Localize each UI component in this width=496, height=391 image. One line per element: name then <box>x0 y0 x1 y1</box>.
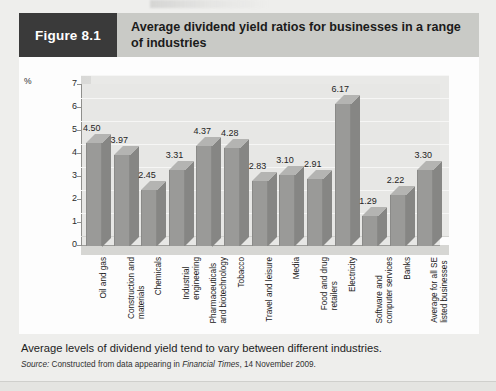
bar[interactable] <box>86 143 102 247</box>
figure-title: Average dividend yield ratios for busine… <box>117 13 479 57</box>
bar-value-label: 3.97 <box>111 135 129 145</box>
plot-floor <box>81 245 449 255</box>
bar-value-label: 4.50 <box>83 123 101 133</box>
bar-side-face <box>433 161 442 246</box>
bar-front-face <box>362 216 378 246</box>
x-axis-category-label: Banks <box>403 257 413 280</box>
category-label-line: listed businesses <box>440 257 450 323</box>
category-label-line: Industrial <box>182 257 192 300</box>
category-label-line: Average for all SE <box>430 257 440 323</box>
bar-side-face <box>295 166 304 246</box>
bar-value-label: 4.28 <box>221 128 239 138</box>
category-label-line: Construction and <box>127 257 137 319</box>
bar[interactable] <box>169 170 185 246</box>
bar-front-face <box>417 170 433 246</box>
y-axis-tick-label: 7 <box>59 78 77 88</box>
x-axis-category-label: Food and drugretailers <box>320 257 339 310</box>
y-axis-tick-label: 4 <box>59 147 77 157</box>
bar[interactable] <box>114 155 130 246</box>
x-axis-category-label: Pharmaceuticalsand biotechnology <box>209 257 228 323</box>
bar-side-face <box>157 181 166 246</box>
bar-front-face <box>307 179 323 246</box>
bar[interactable] <box>335 104 351 246</box>
bottom-band <box>0 382 496 391</box>
category-label-line: engineering <box>192 257 202 300</box>
category-label-line: retailers <box>330 257 340 310</box>
bar-front-face <box>169 170 185 246</box>
figure-caption: Average levels of dividend yield tend to… <box>21 342 477 354</box>
bar-side-face <box>406 186 415 246</box>
bar[interactable] <box>196 146 212 247</box>
y-axis-label: % <box>24 76 32 86</box>
bar-value-label: 2.45 <box>138 170 156 180</box>
bar[interactable] <box>417 170 433 246</box>
category-label-line: Software and <box>375 257 385 323</box>
category-label-line: Pharmaceuticals <box>209 257 219 323</box>
bar-front-face <box>252 181 268 246</box>
y-axis-tick-label: 0 <box>59 239 77 249</box>
bar-value-label: 2.83 <box>249 161 267 171</box>
category-label-line: Banks <box>403 257 413 280</box>
bar-side-face <box>185 161 194 246</box>
x-axis-category-label: Industrialengineering <box>182 257 201 300</box>
category-label-line: Travel and leisure <box>265 257 275 322</box>
category-label-line: Tobacco <box>237 257 247 288</box>
y-axis-tick-label: 6 <box>59 101 77 111</box>
category-label-line: Food and drug <box>320 257 330 310</box>
bar-front-face <box>141 190 157 246</box>
bar-front-face <box>196 146 212 247</box>
bar[interactable] <box>224 148 240 246</box>
bar-value-label: 3.30 <box>414 150 432 160</box>
bar-front-face <box>114 155 130 246</box>
bar[interactable] <box>362 216 378 246</box>
figure-source: Source: Constructed from data appearing … <box>21 360 477 369</box>
x-axis-category-label: Electricity <box>348 257 358 292</box>
x-axis-category-label: Chemicals <box>154 257 164 295</box>
bar[interactable] <box>141 190 157 246</box>
y-axis-tick-label: 3 <box>59 170 77 180</box>
bar-value-label: 2.22 <box>387 175 405 185</box>
gridline <box>81 75 449 76</box>
x-axis-category-label: Oil and gas <box>99 257 109 298</box>
bar[interactable] <box>279 175 295 246</box>
bar-side-face <box>351 95 360 246</box>
x-axis-category-label: Tobacco <box>237 257 247 288</box>
category-label-line: Electricity <box>348 257 358 292</box>
y-axis-tick-label: 5 <box>59 124 77 134</box>
source-text-1: Constructed from data appearing in <box>52 360 180 369</box>
y-axis-tick-label: 1 <box>59 216 77 226</box>
bar-value-label: 3.31 <box>166 150 184 160</box>
source-text-2: , 14 November 2009. <box>239 360 315 369</box>
page-top-artifact <box>150 0 270 8</box>
figure-body: % 01234567 4.503.972.453.314.374.282.833… <box>19 57 479 334</box>
bar-front-face <box>279 175 295 246</box>
bar[interactable] <box>252 181 268 246</box>
bar[interactable] <box>390 195 406 246</box>
category-label-line: Media <box>292 257 302 279</box>
bar-value-label: 4.37 <box>193 126 211 136</box>
figure-header: Figure 8.1 Average dividend yield ratios… <box>19 13 479 57</box>
bar-value-label: 3.10 <box>276 155 294 165</box>
figure-number-tag: Figure 8.1 <box>19 13 117 57</box>
x-axis-category-label: Average for all SElisted businesses <box>430 257 449 323</box>
bar-front-face <box>390 195 406 246</box>
bar-value-label: 2.91 <box>304 159 322 169</box>
figure-page: Figure 8.1 Average dividend yield ratios… <box>0 0 496 391</box>
bar-side-face <box>212 137 221 247</box>
bar-side-face <box>130 146 139 246</box>
x-axis-category-label: Media <box>292 257 302 279</box>
bar-value-label: 1.29 <box>359 196 377 206</box>
x-axis-categories: Oil and gasConstruction andmaterialsChem… <box>81 257 449 335</box>
bar-front-face <box>335 104 351 246</box>
category-label-line: Oil and gas <box>99 257 109 298</box>
bar-chart: % 01234567 4.503.972.453.314.374.282.833… <box>19 57 479 334</box>
bar-side-face <box>102 134 111 247</box>
y-axis-tick-label: 2 <box>59 193 77 203</box>
bar[interactable] <box>307 179 323 246</box>
category-label-line: Chemicals <box>154 257 164 295</box>
source-prefix: Source: <box>21 360 49 369</box>
category-label-line: computer services <box>385 257 395 323</box>
bar-side-face <box>323 170 332 246</box>
bar-front-face <box>86 143 102 247</box>
source-publication: Financial Times <box>182 360 239 369</box>
